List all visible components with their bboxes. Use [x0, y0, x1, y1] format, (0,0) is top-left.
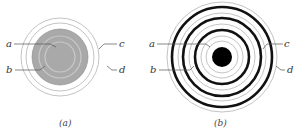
leader-b — [159, 66, 194, 70]
center-dot — [212, 47, 232, 67]
label-d: d — [287, 64, 293, 75]
figure-a: a b c d (a) — [6, 18, 125, 128]
caption-b: (b) — [214, 118, 227, 128]
leader-c — [263, 44, 283, 49]
label-b: b — [6, 64, 12, 75]
label-d: d — [119, 64, 125, 75]
leader-d — [276, 66, 285, 70]
label-a: a — [149, 38, 155, 49]
label-c: c — [119, 38, 125, 49]
label-c: c — [284, 38, 290, 49]
diagram-canvas: a b c d (a) a b c d (b) — [0, 0, 298, 131]
caption-a: (a) — [59, 118, 72, 128]
gray-disk — [32, 29, 88, 85]
label-b: b — [150, 64, 156, 75]
figure-b: a b c d (b) — [149, 2, 293, 128]
leader-c — [99, 44, 117, 49]
leader-d — [107, 66, 117, 70]
label-a: a — [6, 38, 12, 49]
